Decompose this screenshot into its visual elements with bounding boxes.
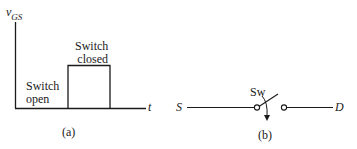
arrow-head-icon	[264, 115, 270, 121]
switch-closed-line2: closed	[75, 53, 108, 66]
switch-open-label: Switch open	[26, 80, 59, 106]
switch-closed-label: Switch closed	[75, 40, 108, 66]
switch-label: Sw	[250, 86, 265, 99]
y-axis-label-subscript: GS	[11, 12, 22, 22]
caption-a: (a)	[62, 126, 75, 139]
x-axis-label: t	[148, 101, 151, 114]
diagram-canvas	[0, 0, 357, 149]
switch-contact-left	[254, 105, 259, 110]
pulse-waveform	[68, 66, 110, 109]
switch-open-line2: open	[26, 93, 59, 106]
caption-b: (b)	[258, 129, 272, 142]
drain-terminal-label: D	[335, 101, 344, 114]
switch-contact-right	[281, 105, 286, 110]
source-terminal-label: S	[176, 101, 182, 114]
y-axis-label: vGS	[6, 6, 22, 20]
switch-label-arrow	[262, 96, 267, 117]
